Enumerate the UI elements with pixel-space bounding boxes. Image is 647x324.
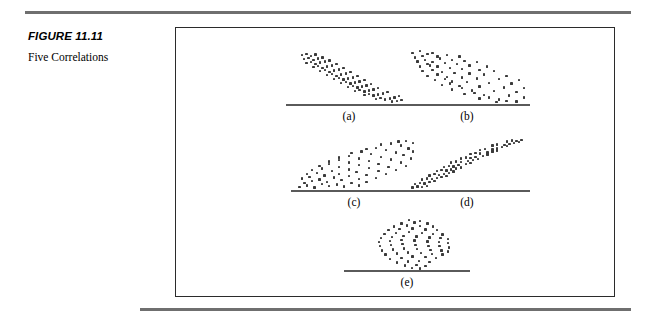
figure-caption: FIGURE 11.11 Five Correlations — [28, 29, 163, 64]
scatter-point — [387, 166, 389, 168]
scatter-point — [389, 240, 391, 242]
scatter-point — [413, 239, 415, 241]
scatter-point — [441, 253, 443, 255]
figure-number: FIGURE 11.11 — [28, 29, 163, 43]
scatter-point — [455, 167, 457, 169]
scatter-point — [488, 82, 490, 84]
scatter-point — [446, 54, 448, 56]
scatter-point — [392, 248, 394, 250]
top-horizontal-rule — [25, 11, 631, 14]
scatter-point — [348, 168, 350, 170]
scatter-point — [378, 241, 380, 243]
scatter-point — [328, 163, 330, 165]
scatter-point — [446, 76, 448, 78]
scatter-point — [505, 75, 507, 77]
scatter-point — [368, 89, 370, 91]
scatter-point — [407, 251, 409, 253]
scatter-panel-e: (e) — [344, 214, 470, 270]
scatter-point — [391, 236, 393, 238]
scatter-point — [436, 65, 438, 67]
scatter-point — [363, 79, 365, 81]
scatter-point — [380, 143, 382, 145]
scatter-point — [515, 91, 517, 93]
scatter-point — [393, 225, 395, 227]
scatter-point — [352, 85, 354, 87]
scatter-point — [312, 66, 314, 68]
scatter-point — [460, 161, 462, 163]
scatter-point — [377, 170, 379, 172]
scatter-point — [421, 186, 423, 188]
scatter-point — [336, 183, 338, 185]
figure-title: Five Correlations — [28, 50, 163, 64]
scatter-point — [358, 157, 360, 159]
scatter-point — [397, 140, 399, 142]
scatter-point — [368, 93, 370, 95]
scatter-point — [401, 243, 403, 245]
scatter-point — [433, 173, 435, 175]
scatter-point — [420, 252, 422, 254]
scatter-point — [321, 183, 323, 185]
scatter-point — [439, 237, 441, 239]
scatter-point — [370, 153, 372, 155]
scatter-point — [436, 170, 438, 172]
scatter-point — [496, 147, 498, 149]
scatter-point — [358, 89, 360, 91]
scatter-point — [389, 258, 391, 260]
scatter-point — [375, 98, 377, 100]
scatter-point — [486, 151, 488, 153]
scatter-point — [506, 145, 508, 147]
scatter-point — [396, 252, 398, 254]
bottom-horizontal-rule — [140, 308, 631, 311]
scatter-point — [414, 56, 416, 58]
scatter-point — [340, 73, 342, 75]
scatter-point — [414, 183, 416, 185]
scatter-point — [319, 61, 321, 63]
scatter-point — [426, 53, 428, 55]
scatter-point — [466, 81, 468, 83]
scatter-point — [428, 174, 430, 176]
scatter-point — [435, 257, 437, 259]
scatter-point — [365, 181, 367, 183]
scatter-point — [491, 144, 493, 146]
scatter-point — [396, 261, 398, 263]
scatter-point — [383, 233, 385, 235]
scatter-point — [515, 100, 517, 102]
scatter-point — [444, 62, 446, 64]
scatter-point — [340, 82, 342, 84]
panel-label-c: (c) — [291, 196, 417, 208]
scatter-point — [486, 153, 488, 155]
scatter-point — [433, 180, 435, 182]
scatter-point — [439, 57, 441, 59]
baseline-axis-d — [404, 190, 530, 192]
scatter-point — [444, 78, 446, 80]
baseline-axis-e — [344, 270, 470, 272]
scatter-point — [445, 169, 447, 171]
scatter-point — [365, 84, 367, 86]
scatter-point — [515, 140, 517, 142]
scatter-point — [518, 141, 520, 143]
scatter-point — [360, 150, 362, 152]
scatter-point — [301, 177, 303, 179]
scatter-point — [306, 184, 308, 186]
scatter-point — [385, 173, 387, 175]
scatter-point — [498, 78, 500, 80]
scatter-point — [452, 165, 454, 167]
scatter-point — [342, 67, 344, 69]
scatter-point — [380, 237, 382, 239]
scatter-point — [395, 232, 397, 234]
scatter-point — [461, 68, 463, 70]
scatter-point — [395, 169, 397, 171]
scatter-point — [434, 79, 436, 81]
scatter-point — [384, 98, 386, 100]
scatter-point — [323, 174, 325, 176]
scatter-point — [328, 160, 330, 162]
scatter-point — [461, 76, 463, 78]
scatter-point — [508, 143, 510, 145]
scatter-point — [428, 181, 430, 183]
scatter-point — [495, 101, 497, 103]
scatter-point — [445, 175, 447, 177]
scatter-point — [414, 244, 416, 246]
panel-label-a: (a) — [286, 110, 412, 122]
scatter-point — [303, 58, 305, 60]
scatter-panel-b: (b) — [404, 42, 530, 104]
